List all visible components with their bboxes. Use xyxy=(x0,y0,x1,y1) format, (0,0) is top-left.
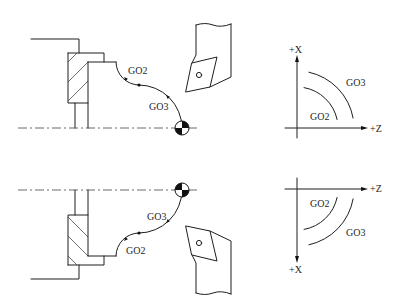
jaw-hatching xyxy=(68,217,88,265)
z-axis-arrow-icon xyxy=(361,187,368,191)
top-axes-view: +X +Z GO3 GO2 xyxy=(285,44,382,138)
bottom-turning-view: GO3 GO2 xyxy=(18,183,231,295)
workpiece-origin-symbol-icon xyxy=(175,121,189,135)
jaw-top-edge xyxy=(68,256,104,265)
bottom-g02-arc-label: GO2 xyxy=(310,198,329,209)
transition-point-dot xyxy=(137,83,140,86)
bottom-x-axis-label: +X xyxy=(289,264,303,275)
top-turning-geometry xyxy=(18,24,231,136)
z-axis-arrow-icon xyxy=(361,126,368,130)
bottom-g03-label: GO3 xyxy=(147,211,166,222)
top-turning-view: GO2 GO3 xyxy=(18,24,231,136)
top-z-axis-label: +Z xyxy=(370,123,382,134)
bottom-z-axis-label: +Z xyxy=(370,183,382,194)
transition-point-dot xyxy=(137,231,140,234)
jaw-hatching xyxy=(68,53,88,101)
workpiece-origin-symbol-icon xyxy=(175,183,189,197)
bottom-turning-geometry xyxy=(18,183,231,295)
top-x-axis-label: +X xyxy=(289,44,303,55)
chuck-outline xyxy=(31,265,79,279)
jaw-top-edge xyxy=(68,53,104,62)
bottom-g02-label: GO2 xyxy=(126,245,145,256)
g02-g03-turning-diagram: GO2 GO3 xyxy=(0,0,402,307)
jaw-outline xyxy=(68,215,88,265)
insert-screw-icon xyxy=(196,72,201,77)
top-g03-label: GO3 xyxy=(149,101,168,112)
top-g02-label: GO2 xyxy=(128,65,147,76)
chuck-outline xyxy=(31,39,79,53)
cutting-tool-icon xyxy=(186,226,231,295)
bottom-g03-arc-label: GO3 xyxy=(346,227,365,238)
top-g03-arc-label: GO3 xyxy=(346,77,365,88)
top-g02-arc-label: GO2 xyxy=(310,111,329,122)
jaw-outline xyxy=(68,53,88,103)
bottom-axes-view: +Z GO2 GO3 +X xyxy=(285,178,382,275)
x-axis-arrow-icon xyxy=(295,256,299,263)
cutting-tool-icon xyxy=(186,24,231,93)
insert-screw-icon xyxy=(196,240,201,245)
x-axis-arrow-icon xyxy=(295,55,299,62)
